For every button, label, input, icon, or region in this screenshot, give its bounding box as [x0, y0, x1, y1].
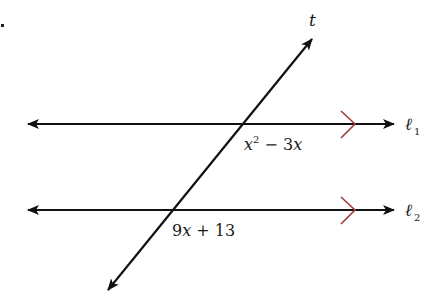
line-l1-label: ℓ 1: [405, 114, 420, 137]
line-l2: [28, 197, 394, 224]
svg-text:x2 − 3x: x2 − 3x: [244, 134, 302, 154]
svg-text:1: 1: [414, 126, 420, 137]
parallel-lines-diagram: t ℓ 1 ℓ 2 x2 − 3x 9x + 13: [0, 0, 441, 305]
svg-text:ℓ: ℓ: [405, 200, 412, 220]
angle-expression-l1: x2 − 3x: [244, 134, 302, 154]
svg-text:9x + 13: 9x + 13: [172, 221, 235, 240]
angle-expression-l2: 9x + 13: [172, 221, 235, 240]
line-l1: [28, 111, 394, 138]
problem-marker-dot: [1, 24, 4, 27]
svg-text:ℓ: ℓ: [405, 114, 412, 134]
svg-text:2: 2: [414, 212, 420, 223]
line-l2-label: ℓ 2: [405, 200, 420, 223]
transversal-label: t: [309, 10, 316, 30]
transversal-t: [108, 39, 312, 290]
